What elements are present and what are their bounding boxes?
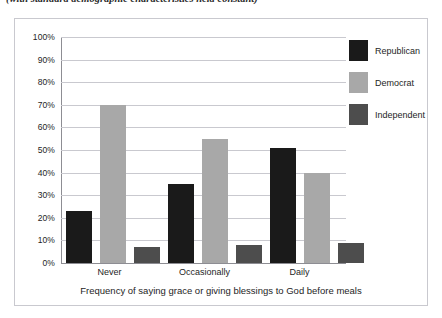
bar[interactable]	[304, 173, 330, 263]
bar[interactable]	[270, 148, 296, 263]
legend-item[interactable]: Democrat	[349, 70, 423, 95]
value-axis-tick-label: 90%	[38, 55, 55, 65]
legend-swatch	[349, 104, 368, 125]
bar-group	[164, 37, 266, 263]
gridline	[61, 263, 346, 264]
value-axis-tick-label: 50%	[38, 145, 55, 155]
legend-label: Independent	[375, 110, 425, 120]
value-axis-tick-label: 10%	[38, 235, 55, 245]
value-axis-tick-label: 30%	[38, 190, 55, 200]
bar-group	[62, 37, 164, 263]
legend-item[interactable]: Republican	[349, 38, 423, 63]
bar[interactable]	[338, 243, 364, 263]
legend-swatch	[349, 72, 368, 93]
bar[interactable]	[168, 184, 194, 263]
value-axis-tick-label: 0%	[43, 258, 56, 268]
value-axis-tick-label: 70%	[38, 100, 55, 110]
figure-caption: (with standard demographic characteristi…	[6, 0, 436, 5]
value-axis-tick-label: 80%	[38, 77, 55, 87]
category-axis-title: Frequency of saying grace or giving bles…	[15, 285, 427, 296]
category-axis-labels: NeverOccasionallyDaily	[62, 267, 347, 277]
bar[interactable]	[100, 105, 126, 263]
legend-label: Republican	[375, 46, 420, 56]
category-axis-label: Daily	[252, 267, 347, 277]
legend-item[interactable]: Independent	[349, 102, 423, 127]
legend-swatch	[349, 40, 368, 61]
category-axis-label: Occasionally	[157, 267, 252, 277]
bar[interactable]	[236, 245, 262, 263]
plot-area: 100%90%80%70%60%50%40%30%20%10%0%	[61, 37, 346, 263]
bar[interactable]	[66, 211, 92, 263]
chart-frame: 100%90%80%70%60%50%40%30%20%10%0% NeverO…	[14, 18, 428, 306]
bar[interactable]	[134, 247, 160, 263]
bar[interactable]	[202, 139, 228, 263]
value-axis-tick-label: 20%	[38, 213, 55, 223]
bar-groups	[62, 37, 346, 263]
value-axis-tick-label: 100%	[33, 32, 55, 42]
value-axis-tick-label: 40%	[38, 168, 55, 178]
legend: RepublicanDemocratIndependent	[349, 38, 423, 134]
value-axis-tick-label: 60%	[38, 122, 55, 132]
category-axis-label: Never	[62, 267, 157, 277]
legend-label: Democrat	[375, 78, 414, 88]
